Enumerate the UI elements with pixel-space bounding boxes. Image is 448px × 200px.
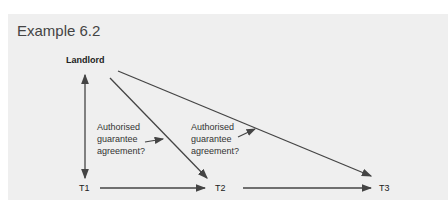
arrow-layer (0, 0, 448, 200)
pointer-note-1 (145, 139, 163, 142)
node-t1: T1 (79, 183, 90, 193)
note-line: agreement? (97, 145, 145, 157)
note-authorised-guarantee-2: Authorised guarantee agreement? (191, 121, 239, 157)
pointer-note-2 (238, 129, 255, 137)
note-authorised-guarantee-1: Authorised guarantee agreement? (97, 121, 145, 157)
note-line: Authorised (191, 121, 239, 133)
note-line: Authorised (97, 121, 145, 133)
note-line: guarantee (191, 133, 239, 145)
node-landlord: Landlord (66, 55, 105, 65)
note-line: guarantee (97, 133, 145, 145)
node-t2: T2 (215, 183, 226, 193)
note-line: agreement? (191, 145, 239, 157)
arrow-landlord-t3 (118, 71, 371, 176)
node-t3: T3 (379, 183, 390, 193)
